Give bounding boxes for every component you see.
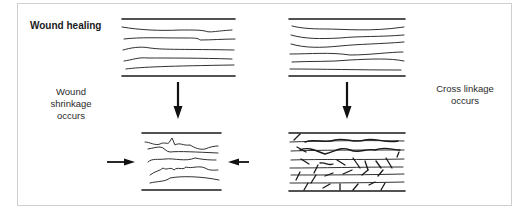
left-down-arrow: [174, 82, 183, 119]
compress-right-arrow: [228, 159, 249, 166]
right-before-panel: [289, 19, 405, 76]
right-after-panel: [289, 133, 405, 191]
compress-left-arrow: [107, 159, 135, 166]
left-after-panel: [142, 133, 221, 190]
diagram-graphics: [0, 0, 531, 215]
right-down-arrow: [343, 82, 352, 119]
left-before-panel: [122, 19, 235, 76]
